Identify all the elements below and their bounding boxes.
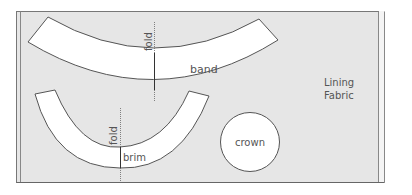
band-label: band bbox=[190, 63, 218, 76]
band-fold-label: fold bbox=[143, 32, 154, 51]
crown-label: crown bbox=[235, 137, 265, 148]
fabric-label-line1: Lining bbox=[324, 77, 354, 88]
pattern-layout-diagram: fold band fold brim crown Lining Fabric bbox=[0, 0, 412, 195]
brim-fold-label: fold bbox=[108, 126, 119, 145]
brim-label: brim bbox=[123, 152, 146, 163]
fabric-label-line2: Fabric bbox=[324, 90, 354, 101]
